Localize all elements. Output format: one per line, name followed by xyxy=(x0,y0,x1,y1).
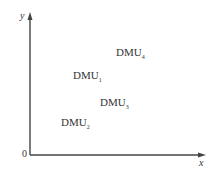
y-axis-label: y xyxy=(20,10,24,21)
point-label-dmu1: DMU1 xyxy=(73,69,102,83)
point-label-dmu3: DMU3 xyxy=(100,96,129,110)
y-axis-arrow-icon xyxy=(28,12,33,20)
axes xyxy=(0,0,214,170)
x-axis-label: x xyxy=(199,157,203,168)
point-label-dmu2: DMU2 xyxy=(61,116,90,130)
point-label-dmu4: DMU4 xyxy=(116,46,145,60)
origin-label: 0 xyxy=(22,148,27,159)
